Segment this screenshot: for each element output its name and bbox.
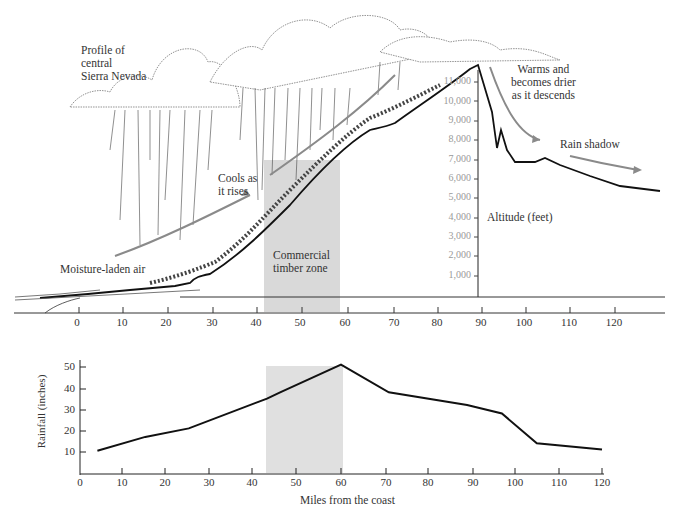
- x-tick-label: 90: [476, 316, 487, 328]
- x-tick-label: 40: [247, 476, 258, 488]
- x-tick-label: 50: [295, 316, 306, 328]
- x-tick-label: 80: [432, 316, 443, 328]
- label-line: as it descends: [511, 89, 576, 102]
- label-line: Commercial: [273, 249, 330, 262]
- warms-label: Warms and becomes drier as it descends: [511, 63, 576, 102]
- top-x-ticks: [79, 307, 615, 313]
- altitude-tick-label: 6,000: [427, 172, 471, 183]
- altitude-tick-label: 10,000: [427, 95, 471, 106]
- x-tick-label: 120: [594, 476, 611, 488]
- altitude-tick-label: 7,000: [427, 153, 471, 164]
- altitude-ticks: [474, 82, 478, 276]
- altitude-tick-label: 2,000: [427, 249, 471, 260]
- altitude-tick-label: 3,000: [427, 230, 471, 241]
- x-tick-label: 20: [161, 316, 172, 328]
- x-tick-label: 70: [381, 476, 392, 488]
- timber-zone-shade-top: [264, 160, 340, 312]
- moisture-label: Moisture-laden air: [60, 263, 145, 276]
- x-tick-label: 100: [516, 316, 533, 328]
- x-tick-label: 20: [160, 476, 171, 488]
- x-axis-title: Miles from the coast: [300, 494, 395, 507]
- label-line: Cools as: [218, 172, 257, 185]
- x-tick-label: 60: [336, 476, 347, 488]
- x-tick-label: 100: [507, 476, 524, 488]
- title-line: Profile of: [81, 44, 146, 57]
- y-tick-label: 30: [55, 403, 75, 415]
- label-line: it rises: [218, 185, 257, 198]
- x-tick-label: 10: [117, 316, 128, 328]
- arrowhead-icon: [633, 166, 642, 174]
- rain-shadow-label: Rain shadow: [560, 138, 620, 151]
- x-tick-label: 110: [561, 316, 577, 328]
- altitude-tick-label: 8,000: [427, 133, 471, 144]
- y-tick-label: 50: [55, 360, 75, 372]
- altitude-axis-label: Altitude (feet): [487, 211, 552, 224]
- rain-shadow-arrow-icon: [570, 156, 638, 170]
- rainfall-line: [97, 365, 602, 451]
- x-tick-label: 50: [291, 476, 302, 488]
- altitude-tick-label: 9,000: [427, 114, 471, 125]
- x-tick-label: 80: [423, 476, 434, 488]
- x-tick-label: 90: [468, 476, 479, 488]
- label-line: timber zone: [273, 262, 330, 275]
- altitude-tick-label: 1,000: [427, 269, 471, 280]
- timber-label: Commercial timber zone: [273, 249, 330, 275]
- cools-label: Cools as it rises: [218, 172, 257, 198]
- y-tick-label: 40: [55, 382, 75, 394]
- title-line: Sierra Nevada: [81, 70, 146, 83]
- x-tick-label: 30: [204, 476, 215, 488]
- rainfall-y-ticks: [80, 367, 86, 452]
- x-tick-label: 30: [207, 316, 218, 328]
- x-tick-label: 0: [77, 476, 83, 488]
- cools-arrow-icon: [115, 195, 250, 256]
- title-line: central: [81, 57, 146, 70]
- x-tick-label: 0: [74, 316, 80, 328]
- x-tick-label: 120: [606, 316, 623, 328]
- altitude-tick-label: 11,000: [427, 75, 471, 86]
- altitude-tick-label: 5,000: [427, 191, 471, 202]
- label-line: becomes drier: [511, 76, 576, 89]
- y-tick-label: 10: [55, 445, 75, 457]
- x-tick-label: 60: [340, 316, 351, 328]
- label-line: Warms and: [511, 63, 576, 76]
- rainfall-x-ticks: [122, 468, 602, 474]
- profile-title: Profile of central Sierra Nevada: [81, 44, 146, 83]
- y-tick-label: 20: [55, 424, 75, 436]
- altitude-tick-label: 4,000: [427, 211, 471, 222]
- x-tick-label: 10: [117, 476, 128, 488]
- x-tick-label: 70: [389, 316, 400, 328]
- coast-edge: [45, 298, 80, 313]
- x-tick-label: 110: [551, 476, 567, 488]
- y-axis-title: Rainfall (inches): [35, 375, 48, 449]
- x-tick-label: 40: [251, 316, 262, 328]
